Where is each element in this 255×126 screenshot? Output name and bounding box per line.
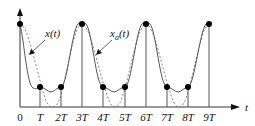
x-label-pointer [32,40,45,52]
sampled-signal-diagram: x(t) xa(t) 0 T 2T 3T 4T 5T 6T 7T 8T 9T t [0,0,255,126]
tick-label-4: 4T [97,111,110,123]
tick-label-7: 7T [161,111,174,123]
tick-label-3: 3T [75,111,89,123]
y-axis-arrow-icon [17,8,23,16]
tick-label-2: 2T [55,111,68,123]
diagram-canvas: x(t) xa(t) 0 T 2T 3T 4T 5T 6T 7T 8T 9T t [0,0,255,126]
x-curve-label: x(t) [44,27,61,40]
t-axis-arrow-icon [231,104,240,110]
tick-label-9: 9T [203,111,216,123]
xa-label-pointer [99,40,112,52]
tick-label-5: 5T [119,111,132,123]
tick-label-1: T [37,111,44,123]
t-axis-label: t [245,101,249,113]
xa-curve-label: xa(t) [109,27,130,42]
tick-label-6: 6T [140,111,153,123]
tick-label-0: 0 [17,111,23,123]
tick-label-8: 8T [182,111,195,123]
